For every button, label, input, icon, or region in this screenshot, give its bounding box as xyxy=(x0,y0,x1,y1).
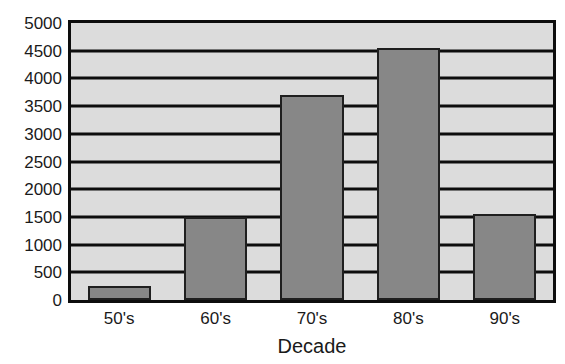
x-axis-tick-label: 90's xyxy=(489,308,520,331)
x-axis-tick-label: 60's xyxy=(200,308,231,331)
plot-area xyxy=(68,20,556,303)
y-axis-tick-labels: 5000450040003500300025002000150010005000 xyxy=(0,20,62,303)
bar xyxy=(88,286,151,300)
bars-layer xyxy=(71,23,553,300)
x-axis-tick-label: 80's xyxy=(393,308,424,331)
y-axis-tick-label: 500 xyxy=(0,264,62,281)
y-axis-tick-label: 2500 xyxy=(0,153,62,170)
y-axis-tick-label: 3500 xyxy=(0,98,62,115)
bar xyxy=(377,48,440,300)
bar-chart-figure: 5000450040003500300025002000150010005000… xyxy=(0,0,565,364)
x-axis-tick-labels: 50's60's70's80's90's xyxy=(68,308,556,334)
y-axis-tick-label: 0 xyxy=(0,292,62,309)
bar xyxy=(184,217,247,300)
y-axis-tick-label: 3000 xyxy=(0,125,62,142)
bar xyxy=(473,214,536,300)
y-axis-tick-label: 1000 xyxy=(0,236,62,253)
y-axis-tick-label: 2000 xyxy=(0,181,62,198)
x-axis-tick-label: 70's xyxy=(297,308,328,331)
x-axis-title: Decade xyxy=(68,334,556,358)
y-axis-tick-label: 1500 xyxy=(0,208,62,225)
y-axis-tick-label: 4000 xyxy=(0,70,62,87)
x-axis-tick-label: 50's xyxy=(104,308,135,331)
y-axis-tick-label: 5000 xyxy=(0,15,62,32)
bar xyxy=(280,95,343,300)
plot-inner xyxy=(71,23,553,300)
y-axis-tick-label: 4500 xyxy=(0,42,62,59)
